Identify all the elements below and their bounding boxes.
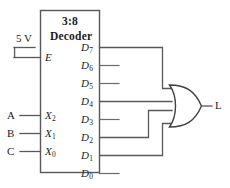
output-pin-d4-base: D: [81, 95, 89, 107]
output-pin-d5-sub: 5: [89, 82, 93, 91]
output-pin-d3: D3: [81, 114, 93, 125]
select-pin-x2-base: X: [45, 109, 52, 121]
output-wire-d2: [100, 111, 173, 138]
output-pin-d5: D5: [81, 78, 93, 89]
input-label-c: C: [7, 146, 14, 157]
output-pin-d4-sub: 4: [89, 100, 93, 109]
select-pin-x2: X2: [45, 110, 55, 121]
output-pin-d1-sub: 1: [89, 154, 93, 163]
circuit-diagram-canvas: 3:8 Decoder 5 V E A B C X2 X1 X0 D7 D6 D…: [0, 0, 230, 188]
select-pin-x1-sub: 1: [52, 132, 56, 141]
output-wire-d1: [100, 124, 173, 156]
output-pin-d0-base: D: [81, 167, 89, 179]
decoder-title-line1: 3:8: [62, 16, 78, 28]
output-wire-d7: [100, 48, 173, 89]
or-gate-body: [170, 85, 202, 127]
output-pin-d6-sub: 6: [89, 64, 93, 73]
output-pin-d4: D4: [81, 96, 93, 107]
select-pin-x1-base: X: [45, 127, 52, 139]
input-label-b: B: [7, 128, 14, 139]
circuit-schematic-svg: [0, 0, 230, 188]
select-pin-x0-sub: 0: [52, 150, 56, 159]
output-pin-d7: D7: [81, 42, 93, 53]
output-pin-d7-sub: 7: [89, 46, 93, 55]
output-pin-d3-base: D: [81, 113, 89, 125]
select-pin-x1: X1: [45, 128, 55, 139]
output-pin-d2-base: D: [81, 131, 89, 143]
output-pin-d0: D0: [81, 168, 93, 179]
output-pin-d5-base: D: [81, 77, 89, 89]
input-label-a: A: [7, 110, 15, 121]
output-pin-d1-base: D: [81, 149, 89, 161]
select-pin-x0: X0: [45, 146, 55, 157]
gate-output-label: L: [215, 100, 222, 111]
output-pin-d3-sub: 3: [89, 118, 93, 127]
output-pin-d1: D1: [81, 150, 93, 161]
power-label: 5 V: [16, 33, 32, 44]
output-pin-d2-sub: 2: [89, 136, 93, 145]
select-pin-x0-base: X: [45, 145, 52, 157]
select-pin-x2-sub: 2: [52, 114, 56, 123]
output-pin-d0-sub: 0: [89, 172, 93, 181]
output-pin-d2: D2: [81, 132, 93, 143]
output-pin-d7-base: D: [81, 41, 89, 53]
enable-pin-label: E: [45, 52, 52, 63]
output-pin-d6-base: D: [81, 59, 89, 71]
output-pin-d6: D6: [81, 60, 93, 71]
